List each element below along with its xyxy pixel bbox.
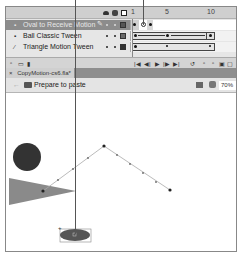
circle-shape: [13, 143, 41, 171]
outline-icon[interactable]: [121, 10, 127, 16]
callout-line: [75, 0, 76, 234]
stage[interactable]: +: [6, 93, 236, 251]
last-frame-button[interactable]: ▶|: [173, 60, 180, 67]
first-frame-button[interactable]: |◀: [134, 60, 141, 67]
layer-color-swatch[interactable]: [120, 44, 126, 50]
frame-number-5: 5: [165, 8, 169, 15]
edit-multiple-icon[interactable]: ▣: [219, 60, 225, 67]
keyframe[interactable]: [149, 23, 152, 26]
onion-skin-icon[interactable]: ▫: [203, 60, 205, 66]
frame-number-1: 1: [131, 8, 135, 15]
stage-canvas: +: [6, 93, 236, 251]
visibility-dot[interactable]: [106, 35, 108, 37]
onion-outline-icon[interactable]: ▫: [212, 60, 214, 66]
frames-cell[interactable]: [130, 20, 236, 30]
back-arrow-icon[interactable]: ←: [13, 81, 20, 88]
keyframe[interactable]: [134, 45, 137, 48]
new-layer-icon[interactable]: ▫: [10, 60, 12, 66]
layer-row-oval[interactable]: ▪ Oval to Receive Motion ✎: [6, 20, 236, 30]
layer-color-swatch[interactable]: [120, 33, 126, 39]
zoom-field[interactable]: 70%: [219, 81, 236, 90]
edit-scene-icon[interactable]: [196, 82, 203, 88]
lock-icon[interactable]: [112, 10, 118, 16]
layer-color-swatch[interactable]: [120, 22, 126, 28]
next-frame-button[interactable]: |▶: [163, 60, 170, 67]
frames-cell[interactable]: [130, 31, 236, 41]
scene-label[interactable]: Prepare to paste: [34, 81, 86, 88]
loop-icon[interactable]: ↺: [190, 60, 195, 67]
visibility-dot[interactable]: [106, 46, 108, 48]
onion-markers-icon[interactable]: ▢: [227, 60, 233, 67]
callout-line: [143, 0, 144, 25]
frame-number-10: 10: [207, 8, 215, 15]
keyframe[interactable]: [166, 45, 168, 47]
edit-bar: ← Prepare to paste 70%: [6, 78, 236, 93]
keyframe[interactable]: [166, 34, 169, 37]
motion-path: [43, 146, 170, 191]
prev-frame-button[interactable]: ◀|: [144, 60, 151, 67]
keyframe[interactable]: [209, 34, 212, 37]
layer-name-cell[interactable]: ▪ Ball Classic Tween: [6, 31, 130, 41]
layer-name-cell[interactable]: ⁄ Triangle Motion Tween: [6, 42, 130, 52]
layer-row-ball[interactable]: ▪ Ball Classic Tween: [6, 31, 236, 41]
document-tab-bar: × CopyMotion-cs6.fla*: [6, 68, 236, 78]
delete-layer-icon[interactable]: ▮: [27, 60, 30, 67]
document-tab[interactable]: × CopyMotion-cs6.fla*: [6, 68, 74, 78]
eye-icon[interactable]: [103, 11, 109, 15]
svg-text:+: +: [58, 225, 62, 231]
tween-arrow: [138, 35, 165, 36]
tween-span[interactable]: [132, 32, 215, 40]
keyframe[interactable]: [133, 23, 136, 26]
edit-symbols-icon[interactable]: [209, 81, 216, 88]
motion-tween-span[interactable]: [132, 43, 215, 51]
lock-dot[interactable]: [114, 35, 116, 37]
close-tab-icon[interactable]: ×: [9, 70, 13, 76]
layer-name[interactable]: Ball Classic Tween: [23, 32, 82, 39]
layer-name[interactable]: Oval to Receive Motion: [23, 21, 95, 28]
timeline-footer: ▫ ▭ ▮ |◀ ◀| ▶ |▶ ▶| ↺ ▫ ▫ ▣ ▢: [6, 57, 236, 68]
frames-cell[interactable]: [130, 42, 236, 52]
visibility-dot[interactable]: [106, 24, 108, 26]
keyframe[interactable]: [134, 34, 137, 37]
flash-window: 1 5 10 ▪ Oval to Receive Motion ✎ ▪ Ball…: [5, 6, 237, 252]
layer-icon: ▪: [14, 22, 20, 28]
layer-icon: ▪: [14, 33, 20, 39]
layer-name[interactable]: Triangle Motion Tween: [23, 43, 93, 50]
motion-layer-icon: ⁄: [14, 44, 20, 50]
pencil-icon: ✎: [97, 20, 103, 28]
timeline-header: 1 5 10: [6, 7, 236, 19]
layer-name-cell[interactable]: ▪ Oval to Receive Motion ✎: [6, 20, 130, 30]
layer-row-triangle[interactable]: ⁄ Triangle Motion Tween: [6, 42, 236, 52]
tween-arrow: [171, 35, 205, 36]
keyframe[interactable]: [209, 45, 211, 47]
playhead[interactable]: [132, 19, 133, 57]
scene-icon: [24, 82, 32, 88]
document-title: CopyMotion-cs6.fla*: [17, 70, 71, 76]
lock-dot[interactable]: [114, 24, 116, 26]
new-folder-icon[interactable]: ▭: [18, 60, 24, 67]
lock-dot[interactable]: [114, 46, 116, 48]
play-button[interactable]: ▶: [155, 60, 160, 67]
